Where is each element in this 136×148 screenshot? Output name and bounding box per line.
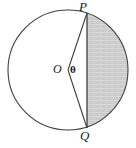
point-label-p: P [79,0,87,13]
angle-label-theta: θ [70,64,76,75]
point-label-q: Q [80,129,89,142]
center-label-o: O [53,63,62,75]
circle-segment-diagram [0,0,136,148]
radius-op-line [68,13,87,70]
radius-oq-line [68,70,87,128]
geometry-figure: P Q O θ [0,0,136,148]
shaded-segment-group [87,8,132,140]
shaded-segment [87,8,132,140]
